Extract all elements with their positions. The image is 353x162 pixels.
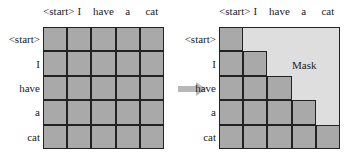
- matrix-cell: [219, 76, 243, 100]
- matrix-cell: [67, 27, 91, 51]
- column-label-2: I: [67, 5, 91, 17]
- matrix-cell: [43, 51, 67, 75]
- row-label-1: <start>: [2, 33, 40, 45]
- matrix-cell: [91, 100, 115, 124]
- matrix-cell: [292, 100, 316, 124]
- row-label-4: a: [2, 106, 40, 118]
- matrix-cell: [43, 27, 67, 51]
- matrix-cell: [116, 125, 140, 149]
- column-label-5: cat: [140, 5, 164, 17]
- matrix-cell: [116, 76, 140, 100]
- row-label-5: cat: [178, 131, 216, 143]
- column-label-4: a: [116, 5, 140, 17]
- matrix-cell: [292, 125, 316, 149]
- mask-label: Mask: [292, 59, 316, 71]
- row-label-1: <start>: [178, 33, 216, 45]
- matrix-cell: [116, 100, 140, 124]
- matrix-cell: [140, 100, 164, 124]
- matrix-cell: [116, 51, 140, 75]
- matrix-cell: [316, 125, 340, 149]
- matrix-cell: [140, 125, 164, 149]
- matrix-cell: [91, 76, 115, 100]
- matrix-cell: [91, 27, 115, 51]
- row-label-2: I: [2, 58, 40, 70]
- row-label-3: have: [178, 82, 216, 94]
- matrix-cell: [219, 100, 243, 124]
- row-label-3: have: [2, 82, 40, 94]
- column-label-3: have: [92, 5, 116, 17]
- column-label-1: <start>: [43, 5, 67, 17]
- matrix-cell: [91, 51, 115, 75]
- matrix-cell: [219, 51, 243, 75]
- masked-matrix: Mask: [219, 27, 340, 149]
- matrix-cell: [67, 76, 91, 100]
- matrix-cell: [116, 27, 140, 51]
- matrix-cell: [67, 51, 91, 75]
- column-label-1: <start>: [219, 5, 243, 17]
- matrix-cell: [140, 27, 164, 51]
- matrix-cell: [243, 76, 267, 100]
- matrix-cell: [267, 125, 291, 149]
- matrix-cell: [67, 125, 91, 149]
- matrix-cell: [243, 51, 267, 75]
- full-matrix: [43, 27, 164, 149]
- matrix-cell: [43, 76, 67, 100]
- matrix-cell: [140, 51, 164, 75]
- column-label-5: cat: [316, 5, 340, 17]
- row-label-2: I: [178, 58, 216, 70]
- matrix-cell: [267, 100, 291, 124]
- matrix-cell: [243, 100, 267, 124]
- matrix-cell: [140, 76, 164, 100]
- matrix-cell: [43, 100, 67, 124]
- matrix-cell: [219, 27, 243, 51]
- matrix-cell: [219, 125, 243, 149]
- row-label-4: a: [178, 106, 216, 118]
- matrix-cell: [243, 125, 267, 149]
- column-label-2: I: [243, 5, 267, 17]
- matrix-cell: [67, 100, 91, 124]
- row-label-5: cat: [2, 131, 40, 143]
- column-label-4: a: [292, 5, 316, 17]
- column-label-3: have: [268, 5, 292, 17]
- matrix-cell: [43, 125, 67, 149]
- matrix-cell: [91, 125, 115, 149]
- matrix-cell: [267, 76, 291, 100]
